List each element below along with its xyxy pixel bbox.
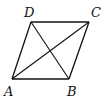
vertex-label-c: C [91,5,101,20]
vertex-labels: A B C D [3,5,101,99]
parallelogram-diagram: A B C D [0,0,106,102]
parallelogram-diagonals [12,22,89,79]
vertex-label-b: B [66,84,77,99]
diagram-svg: A B C D [0,0,106,102]
vertex-label-a: A [3,84,13,99]
vertex-label-d: D [23,5,35,20]
side-bc [69,22,89,79]
diagonal-db [31,22,69,79]
side-da [12,22,31,79]
